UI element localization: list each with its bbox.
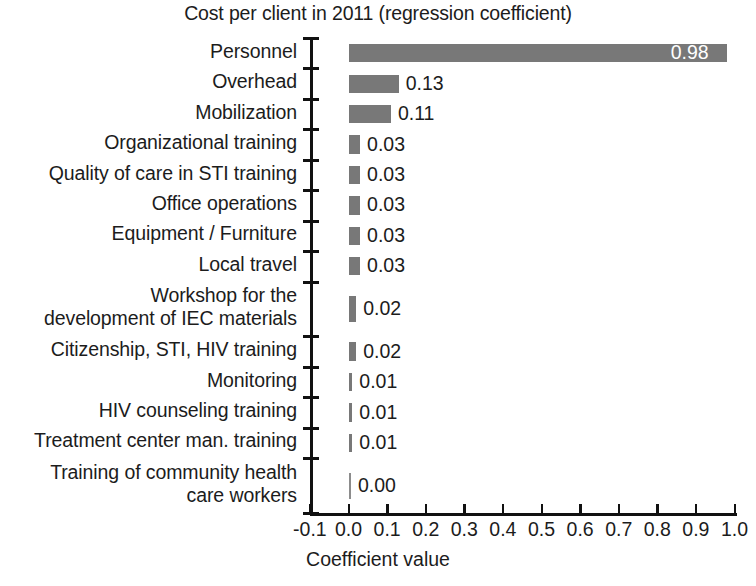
x-axis-tick bbox=[386, 504, 389, 515]
x-axis-tick-label: 0.4 bbox=[489, 518, 516, 541]
x-axis-tick-label: 0.7 bbox=[605, 518, 632, 541]
category-label: Citizenship, STI, HIV training bbox=[51, 338, 297, 361]
bar-value-label: 0.11 bbox=[398, 102, 435, 125]
x-axis-line bbox=[310, 513, 737, 516]
x-axis-tick bbox=[618, 504, 621, 515]
x-axis-tick-label: 0.2 bbox=[412, 518, 439, 541]
category-label: Mobilization bbox=[195, 101, 297, 124]
x-axis-tick bbox=[541, 504, 544, 515]
bar-value-label: 0.03 bbox=[367, 193, 405, 216]
x-axis-tick-label: 0.8 bbox=[644, 518, 671, 541]
bar bbox=[349, 75, 399, 93]
x-axis-tick bbox=[502, 504, 505, 515]
bar-chart-figure: Cost per client in 2011 (regression coef… bbox=[0, 0, 756, 586]
y-axis-tick bbox=[303, 281, 319, 284]
category-label: Training of community health care worker… bbox=[50, 461, 297, 507]
bar bbox=[349, 227, 361, 245]
y-axis-tick bbox=[303, 189, 319, 192]
bar-value-label: 0.01 bbox=[359, 370, 397, 393]
bar bbox=[349, 196, 361, 214]
bar bbox=[349, 135, 361, 153]
bar-value-label: 0.98 bbox=[671, 41, 709, 64]
y-axis-tick bbox=[303, 250, 319, 253]
category-label: Office operations bbox=[152, 192, 297, 215]
x-axis-tick-label: 0.5 bbox=[528, 518, 555, 541]
y-axis-tick bbox=[303, 67, 319, 70]
x-axis-tick bbox=[695, 504, 698, 515]
bar-value-label: 0.03 bbox=[367, 224, 405, 247]
category-label: HIV counseling training bbox=[99, 399, 297, 422]
x-axis-tick bbox=[309, 504, 312, 515]
bar-value-label: 0.02 bbox=[363, 297, 401, 320]
category-label: Organizational training bbox=[104, 131, 297, 154]
bar bbox=[349, 473, 352, 499]
bar-value-label: 0.03 bbox=[367, 133, 405, 156]
bar-value-label: 0.01 bbox=[359, 431, 397, 454]
category-label: Quality of care in STI training bbox=[49, 162, 297, 185]
y-axis-tick bbox=[303, 457, 319, 460]
bar bbox=[349, 342, 357, 360]
x-axis-tick bbox=[425, 504, 428, 515]
category-label: Monitoring bbox=[207, 369, 297, 392]
y-axis-tick bbox=[303, 366, 319, 369]
y-axis-tick bbox=[303, 220, 319, 223]
x-axis-tick bbox=[463, 504, 466, 515]
category-label: Personnel bbox=[210, 40, 297, 63]
y-axis-line bbox=[310, 37, 313, 514]
x-axis-tick-label: -0.1 bbox=[293, 518, 327, 541]
x-axis-tick-label: 0.3 bbox=[451, 518, 478, 541]
bar-value-label: 0.00 bbox=[358, 474, 396, 497]
x-axis-tick bbox=[656, 504, 659, 515]
category-label: Local travel bbox=[198, 253, 297, 276]
bar bbox=[349, 257, 361, 275]
category-label: Equipment / Furniture bbox=[112, 222, 297, 245]
category-label: Workshop for the development of IEC mate… bbox=[44, 284, 297, 330]
y-axis-tick bbox=[303, 37, 319, 40]
bar bbox=[349, 105, 391, 123]
x-axis-tick bbox=[734, 504, 737, 515]
bar bbox=[349, 373, 353, 391]
x-axis-tick bbox=[579, 504, 582, 515]
bar bbox=[349, 434, 353, 452]
bar-value-label: 0.03 bbox=[367, 254, 405, 277]
y-axis-tick bbox=[303, 128, 319, 131]
x-axis-tick bbox=[348, 504, 351, 515]
x-axis-tick-label: 0.1 bbox=[374, 518, 401, 541]
x-axis-tick-label: 0.9 bbox=[682, 518, 709, 541]
bar bbox=[349, 403, 353, 421]
bar bbox=[349, 296, 357, 322]
x-axis-tick-label: 1.0 bbox=[721, 518, 748, 541]
y-axis-tick bbox=[303, 335, 319, 338]
y-axis-tick bbox=[303, 396, 319, 399]
bar-value-label: 0.01 bbox=[359, 401, 397, 424]
chart-title: Cost per client in 2011 (regression coef… bbox=[0, 2, 756, 25]
x-axis-title: Coefficient value bbox=[0, 548, 756, 571]
bar-value-label: 0.02 bbox=[363, 340, 401, 363]
bar-value-label: 0.03 bbox=[367, 163, 405, 186]
y-axis-tick bbox=[303, 98, 319, 101]
category-label: Overhead bbox=[212, 70, 297, 93]
bar-value-label: 0.13 bbox=[406, 72, 444, 95]
y-axis-tick bbox=[303, 427, 319, 430]
bar bbox=[349, 166, 361, 184]
x-axis-tick-label: 0.0 bbox=[335, 518, 362, 541]
x-axis-tick-label: 0.6 bbox=[567, 518, 594, 541]
category-label: Treatment center man. training bbox=[34, 429, 297, 452]
y-axis-tick bbox=[303, 159, 319, 162]
